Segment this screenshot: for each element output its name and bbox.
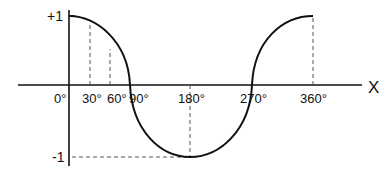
- y-label-minus-one: -1: [52, 149, 65, 165]
- x-label-270: 270°: [240, 91, 267, 106]
- x-label-180: 180°: [178, 91, 205, 106]
- cosine-diagram: +1 -1 0° 30° 60° 90° 180° 270° 360° X: [0, 0, 392, 172]
- x-label-60: 60°: [107, 91, 127, 106]
- x-label-360: 360°: [300, 91, 327, 106]
- x-axis-name: X: [368, 78, 379, 97]
- y-label-plus-one: +1: [47, 8, 63, 24]
- x-label-90: 90°: [129, 91, 149, 106]
- x-label-30: 30°: [82, 91, 102, 106]
- x-label-0: 0°: [54, 91, 66, 106]
- cosine-curve: [70, 16, 313, 157]
